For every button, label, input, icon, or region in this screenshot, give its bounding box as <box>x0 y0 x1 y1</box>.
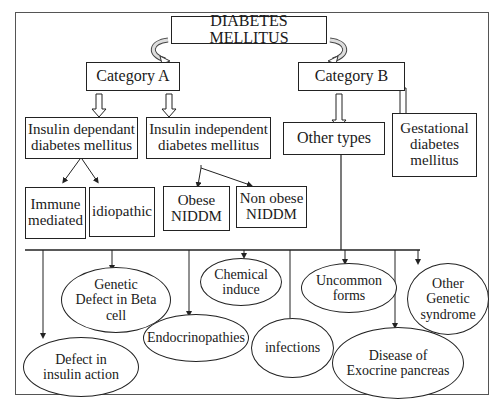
immune-mediated-label: Immune mediated <box>28 197 83 229</box>
root-node-diabetes-mellitus: DIABETES MELLITUS <box>171 16 327 44</box>
root-label: DIABETES MELLITUS <box>172 13 326 47</box>
gestational-dm-node: Gestational diabetes mellitus <box>392 113 477 177</box>
niddm-node: Insulin independent diabetes mellitus <box>146 117 271 159</box>
gestational-dm-label: Gestational diabetes mellitus <box>400 121 468 168</box>
category-a-node: Category A <box>86 62 180 91</box>
ellipse-infections: infections <box>251 318 334 378</box>
ellipse-other-genetic-syndrome: Other Genetic syndrome <box>407 263 489 335</box>
chemical-induce-label: Chemical induce <box>214 267 268 298</box>
other-types-label: Other types <box>297 130 371 147</box>
other-types-node: Other types <box>283 122 385 155</box>
infections-label: infections <box>265 340 320 355</box>
obese-niddm-label: Obese NIDDM <box>171 193 222 225</box>
uncommon-forms-label: Uncommon forms <box>316 273 382 304</box>
category-a-label: Category A <box>96 68 169 85</box>
idiopathic-label: idiopathic <box>92 204 152 220</box>
non-obese-niddm-node: Non obese NIDDM <box>236 186 307 228</box>
immune-mediated-node: Immune mediated <box>25 187 86 239</box>
iddm-node: Insulin dependant diabetes mellitus <box>25 117 138 159</box>
ellipse-endocrinopathies: Endocrinopathies <box>143 314 249 362</box>
ellipse-chemical-induce: Chemical induce <box>200 258 282 306</box>
non-obese-niddm-label: Non obese NIDDM <box>240 191 304 223</box>
defect-insulin-action-label: Defect in insulin action <box>43 352 119 383</box>
other-genetic-syndrome-label: Other Genetic syndrome <box>420 276 475 322</box>
ellipse-defect-insulin-action: Defect in insulin action <box>23 337 139 397</box>
obese-niddm-node: Obese NIDDM <box>163 186 230 231</box>
niddm-label: Insulin independent diabetes mellitus <box>149 122 268 154</box>
ellipse-disease-exocrine-pancreas: Disease of Exocrine pancreas <box>332 327 464 399</box>
category-b-label: Category B <box>315 68 388 85</box>
idiopathic-node: idiopathic <box>89 187 155 237</box>
iddm-label: Insulin dependant diabetes mellitus <box>28 122 135 154</box>
disease-exocrine-pancreas-label: Disease of Exocrine pancreas <box>347 348 450 379</box>
ellipse-uncommon-forms: Uncommon forms <box>301 263 397 313</box>
genetic-defect-label: Genetic Defect in Beta cell <box>76 277 157 323</box>
category-b-node: Category B <box>298 62 405 91</box>
endocrinopathies-label: Endocrinopathies <box>147 330 245 345</box>
